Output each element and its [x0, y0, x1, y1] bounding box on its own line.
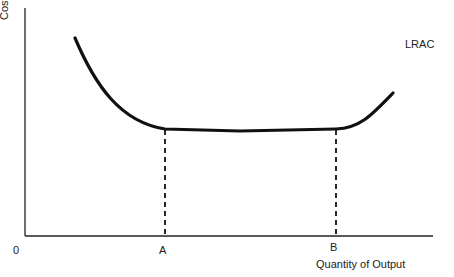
x-axis-label: Quantity of Output: [316, 258, 405, 270]
x-tick-b: B: [330, 241, 337, 253]
y-axis-label: Cost: [0, 0, 10, 20]
origin-label: 0: [13, 244, 19, 256]
lrac-label: LRAC: [405, 38, 434, 50]
x-tick-a: A: [159, 244, 166, 256]
cost-curve-chart: [0, 0, 454, 277]
lrac-curve: [75, 38, 393, 131]
